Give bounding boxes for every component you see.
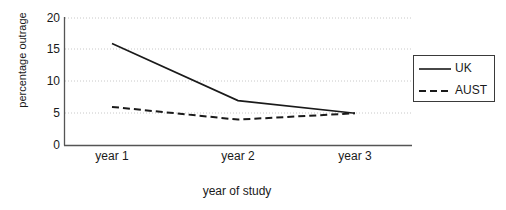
legend-line-dashed-icon [418,85,452,97]
x-tick-label-year-3: year 3 [315,150,395,163]
legend-entry-aust: AUST [414,79,496,102]
legend-label-uk: UK [455,62,472,75]
chart-figure: percentage outrage 0 5 10 15 20 year 1 y… [0,0,506,210]
legend-label-aust: AUST [455,84,487,97]
x-axis-title: year of study [137,185,337,198]
x-axis-tick-labels: year 1 year 2 year 3 [0,0,506,210]
legend-line-solid-icon [418,63,452,75]
chart-legend: UK AUST [413,55,495,102]
x-tick-label-year-1: year 1 [72,150,152,163]
x-tick-label-year-2: year 2 [198,150,278,163]
legend-entry-uk: UK [414,57,496,80]
